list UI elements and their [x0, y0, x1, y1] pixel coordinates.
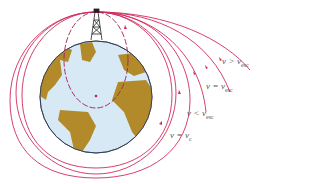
launch-tower — [91, 9, 102, 40]
label-v-less-than-escape: v<vesc — [187, 108, 214, 120]
label-v-equal-escape: v=vesc — [206, 81, 233, 93]
label-v-greater-than-escape: v>vesc — [222, 56, 249, 68]
earth-center-point — [95, 95, 98, 98]
label-v-equal-circular: v=vc — [170, 130, 192, 142]
